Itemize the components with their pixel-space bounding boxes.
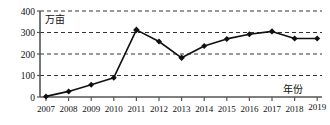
- y-tick-label-100: 100: [21, 71, 36, 81]
- x-axis-title-label: 年份: [283, 83, 303, 95]
- x-tick-label-2017: 2017: [263, 104, 282, 114]
- x-tick-label-2014: 2014: [195, 104, 214, 114]
- x-tick-label-2012: 2012: [150, 104, 168, 114]
- y-tick-label-200: 200: [21, 50, 36, 60]
- x-tick-label-2011: 2011: [128, 104, 146, 114]
- line-chart: 400 300 200 100 0 万亩 年份: [0, 0, 330, 125]
- x-tick-label-2010: 2010: [105, 104, 124, 114]
- x-tick-label-2008: 2008: [60, 104, 79, 114]
- x-tick-label-2016: 2016: [240, 104, 259, 114]
- x-tick-label-2018: 2018: [286, 104, 305, 114]
- y-tick-label-400: 400: [21, 7, 36, 17]
- x-tick-label-2013: 2013: [173, 104, 192, 114]
- x-tick-label-2007: 2007: [37, 104, 56, 114]
- y-tick-label-0: 0: [30, 93, 35, 103]
- y-tick-label-300: 300: [21, 28, 36, 38]
- chart-canvas: 400 300 200 100 0 万亩 年份: [0, 0, 330, 125]
- x-tick-label-2009: 2009: [82, 104, 101, 114]
- x-tick-label-2015: 2015: [218, 104, 237, 114]
- y-axis-unit-label: 万亩: [45, 13, 65, 25]
- x-tick-label-2019: 2019: [308, 102, 327, 112]
